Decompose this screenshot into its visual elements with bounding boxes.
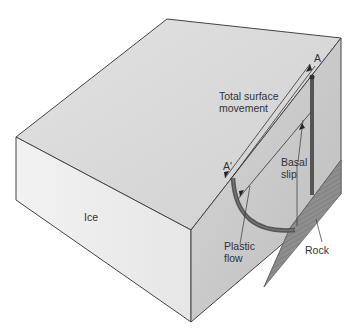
label-rock: Rock [305,244,330,256]
label-basal-slip-2: slip [281,168,297,180]
label-point-a-prime: A' [223,160,232,172]
label-total-surface-movement-2: movement [219,102,268,114]
glacier-diagram: A A' Total surface movement Basal slip P… [0,0,354,334]
label-point-a: A [314,52,321,64]
leader-rock [316,219,322,242]
rod-top-original [310,75,315,80]
label-ice: Ice [84,211,98,223]
label-plastic-flow-2: flow [224,252,243,264]
label-basal-slip: Basal [281,156,307,168]
label-plastic-flow: Plastic [224,240,255,252]
label-total-surface-movement: Total surface [219,90,279,102]
